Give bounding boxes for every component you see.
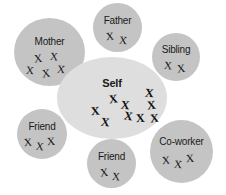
satellite-node-friend-bottom: FriendXX: [87, 139, 136, 188]
center-node-self: SelfXXXXXXXXX: [57, 57, 167, 139]
social-circles-diagram: MotherXXXXXFatherXXSiblingXXFriendXXXFri…: [0, 0, 226, 195]
circle-shape-friend-bottom: [87, 139, 136, 188]
node-label-mother: Mother: [14, 36, 85, 47]
center-ellipse-shape: [57, 57, 167, 139]
satellite-node-father: FatherXX: [93, 3, 142, 52]
circle-shape-father: [93, 3, 142, 52]
node-label-friend-bottom: Friend: [87, 151, 136, 162]
node-label-self: Self: [57, 77, 167, 89]
node-label-sibling: Sibling: [152, 44, 200, 55]
node-label-father: Father: [93, 15, 142, 26]
